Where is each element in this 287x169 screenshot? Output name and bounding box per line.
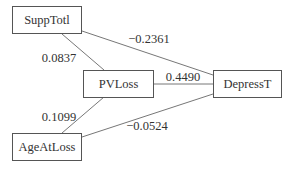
node-label: SuppTotl — [24, 13, 70, 28]
node-label: PVLoss — [99, 77, 139, 92]
node-ageatloss: AgeAtLoss — [12, 133, 82, 161]
node-label: AgeAtLoss — [19, 140, 76, 155]
coefficient-pvloss-depresst: 0.4490 — [166, 70, 200, 85]
coefficient-ageatloss-pvloss: 0.1099 — [42, 110, 76, 125]
coefficient-supptotl-depresst: −0.2361 — [128, 32, 169, 47]
node-supptotl: SuppTotl — [12, 6, 82, 34]
coefficient-supptotl-pvloss: 0.0837 — [42, 51, 76, 66]
coefficient-ageatloss-depresst: −0.0524 — [126, 119, 167, 134]
node-depresst: DepressT — [213, 70, 282, 98]
node-label: DepressT — [224, 77, 272, 92]
node-pvloss: PVLoss — [83, 70, 154, 98]
